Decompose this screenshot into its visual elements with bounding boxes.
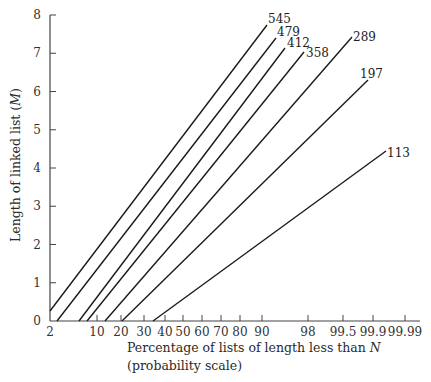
y-tick-label: 8 xyxy=(33,8,41,22)
x-axis-ticks: 21020304050607080909899.599.999.99 xyxy=(46,315,422,339)
series-line-545 xyxy=(50,25,267,311)
probability-plot: 012345678 21020304050607080909899.599.99… xyxy=(0,0,431,382)
series-label-358: 358 xyxy=(306,46,329,60)
x-axis-subtitle: (probability scale) xyxy=(127,358,242,373)
y-tick-label: 4 xyxy=(33,161,41,175)
series-line-412 xyxy=(79,48,285,321)
y-tick-label: 0 xyxy=(33,314,41,328)
y-axis-ticks: 012345678 xyxy=(33,8,56,328)
series-lines: 545479412358289197113 xyxy=(50,12,410,321)
y-tick-label: 5 xyxy=(33,123,41,137)
y-tick-label: 1 xyxy=(33,276,41,290)
x-tick-label: 99.99 xyxy=(388,325,422,339)
series-label-113: 113 xyxy=(387,146,410,160)
x-tick-label: 60 xyxy=(194,325,209,339)
y-axis-title: Length of linked list (M) xyxy=(8,88,23,242)
x-axis-title: Percentage of lists of length less than … xyxy=(127,340,382,355)
x-tick-label: 99.5 xyxy=(330,325,357,339)
x-tick-label: 70 xyxy=(213,325,228,339)
y-tick-label: 3 xyxy=(33,199,41,213)
x-tick-label: 99.9 xyxy=(360,325,387,339)
series-line-289 xyxy=(105,37,352,321)
y-tick-label: 6 xyxy=(33,85,41,99)
x-tick-label: 20 xyxy=(113,325,128,339)
axes xyxy=(50,15,420,321)
series-line-358 xyxy=(87,52,304,321)
x-tick-label: 2 xyxy=(46,325,54,339)
series-line-197 xyxy=(122,80,368,321)
x-tick-label: 50 xyxy=(175,325,190,339)
x-tick-label: 30 xyxy=(136,325,151,339)
series-line-479 xyxy=(57,38,276,321)
x-tick-label: 98 xyxy=(300,325,315,339)
x-tick-label: 40 xyxy=(157,325,172,339)
x-tick-label: 90 xyxy=(254,325,269,339)
y-tick-label: 7 xyxy=(33,46,41,60)
series-label-289: 289 xyxy=(353,30,376,44)
series-label-545: 545 xyxy=(268,12,291,26)
x-tick-label: 10 xyxy=(89,325,104,339)
series-label-197: 197 xyxy=(360,67,383,81)
x-tick-label: 80 xyxy=(232,325,247,339)
y-tick-label: 2 xyxy=(33,238,41,252)
